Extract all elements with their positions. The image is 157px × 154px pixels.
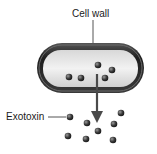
bacterial-cell <box>37 43 144 93</box>
toxin-molecule <box>67 114 74 121</box>
toxin-molecule <box>95 62 102 69</box>
toxin-molecule <box>84 120 91 127</box>
toxin-molecule <box>109 67 116 74</box>
toxin-molecule <box>110 137 117 144</box>
toxin-molecule <box>95 128 102 135</box>
toxin-molecule <box>65 133 72 140</box>
toxin-molecule <box>102 75 109 82</box>
toxin-molecule <box>78 75 85 82</box>
exotoxin-label: Exotoxin <box>6 112 44 122</box>
toxin-molecule <box>83 136 90 143</box>
toxin-molecule <box>66 74 73 81</box>
diagram-graphic <box>0 0 157 154</box>
cytoplasm <box>43 50 138 87</box>
cell-wall-label: Cell wall <box>72 9 109 19</box>
toxin-molecule <box>118 110 125 117</box>
exotoxin-diagram: Cell wall Exotoxin <box>0 0 157 154</box>
toxin-molecule <box>111 121 118 128</box>
